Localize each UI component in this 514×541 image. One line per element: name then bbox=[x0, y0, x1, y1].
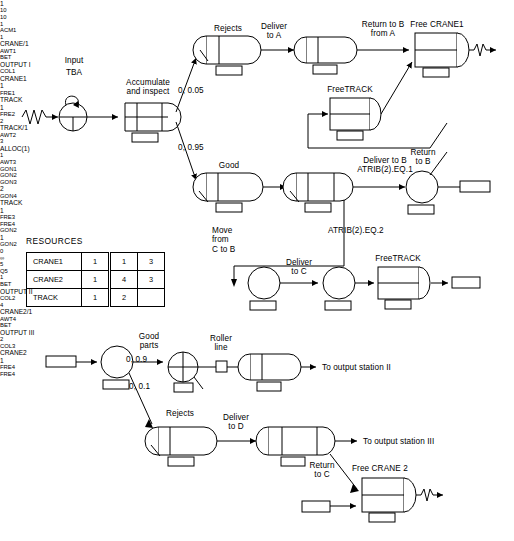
branch-prob-good: 0, 0.95 bbox=[178, 143, 204, 152]
accumulate-label: Accumulate and inspect bbox=[110, 78, 186, 97]
resource-file-b: 3 bbox=[138, 253, 165, 271]
table-row: CRANE1 1 1 3 bbox=[27, 253, 165, 271]
free-crane2-label: Free CRANE 2 bbox=[352, 464, 408, 473]
return-to-c-label: Return to C bbox=[300, 461, 344, 480]
to-output-station-2-label: To output station II bbox=[322, 363, 391, 372]
freetrack-label-lower: FreeTRACK bbox=[366, 254, 430, 263]
resource-capacity: 1 bbox=[82, 289, 110, 307]
resource-file-a: 1 bbox=[110, 253, 138, 271]
freetrack-label-upper: FreeTRACK bbox=[318, 85, 382, 94]
resources-table: CRANE1 1 1 3 CRANE2 1 4 3 TRACK 1 2 bbox=[26, 252, 165, 307]
resource-name: CRANE2 bbox=[27, 271, 82, 289]
table-row: CRANE2 1 4 3 bbox=[27, 271, 165, 289]
resource-capacity: 1 bbox=[82, 271, 110, 289]
resource-name: TRACK bbox=[27, 289, 82, 307]
resource-file-b: 3 bbox=[138, 271, 165, 289]
atrib2-eq2-label: ATRIB(2).EQ.2 bbox=[328, 226, 384, 235]
return-to-b-label: Return to B bbox=[402, 148, 444, 167]
table-row: TRACK 1 2 bbox=[27, 289, 165, 307]
rejects-label-lower: Rejects bbox=[166, 409, 194, 418]
resources-title: RESOURCES bbox=[26, 236, 83, 246]
lower-prob-good: 0, 0.9 bbox=[126, 355, 147, 364]
resource-file-a: 2 bbox=[110, 289, 138, 307]
branch-prob-reject: 0, 0.05 bbox=[178, 86, 204, 95]
roller-line-label: Roller line bbox=[201, 334, 241, 353]
to-output-station-3-label: To output station III bbox=[363, 437, 434, 446]
resource-file-a: 4 bbox=[110, 271, 138, 289]
lower-prob-rejects: 0, 0.1 bbox=[129, 382, 150, 391]
good-parts-label: Good parts bbox=[128, 332, 170, 351]
deliver-to-d-label: Deliver to D bbox=[214, 413, 258, 432]
move-from-c-to-b-label: Move from C to B bbox=[212, 226, 235, 254]
tba-label: TBA bbox=[57, 68, 91, 77]
network-diagram: Input TBA 1 Accumulate and inspect 10 10… bbox=[0, 0, 514, 541]
input-label: Input bbox=[57, 56, 91, 65]
resource-capacity: 1 bbox=[82, 253, 110, 271]
resource-name: CRANE1 bbox=[27, 253, 82, 271]
free-crane1-label: Free CRANE1 bbox=[405, 20, 469, 29]
deliver-to-c-label: Deliver to C bbox=[277, 258, 321, 277]
deliver-to-a-label: Deliver to A bbox=[252, 22, 296, 41]
good-label-upper: Good bbox=[202, 161, 256, 170]
resource-file-b bbox=[138, 289, 165, 307]
rejects-label-upper: Rejects bbox=[199, 24, 257, 33]
